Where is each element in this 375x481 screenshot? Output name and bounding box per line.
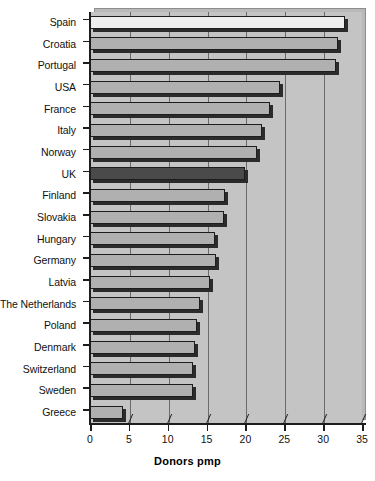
- bar-body: [90, 81, 280, 94]
- y-tick: [83, 127, 90, 129]
- bar-france: [90, 102, 275, 124]
- bar-croatia: [90, 37, 343, 59]
- x-axis-title: Donors pmp: [0, 455, 375, 467]
- y-tick: [83, 171, 90, 173]
- x-tick-20: [245, 425, 247, 431]
- bar-body: [90, 211, 224, 224]
- y-label-latvia: Latvia: [0, 276, 82, 288]
- y-tick: [83, 41, 90, 43]
- y-label-portugal: Portugal: [0, 59, 82, 71]
- y-tick: [83, 257, 90, 259]
- y-label-hungary: Hungary: [0, 233, 82, 245]
- x-tick-5: [129, 425, 131, 431]
- y-label-slovakia: Slovakia: [0, 211, 82, 223]
- bar-body: [90, 254, 216, 267]
- y-label-spain: Spain: [0, 16, 82, 28]
- y-tick: [83, 62, 90, 64]
- bar-latvia: [90, 276, 215, 298]
- x-tick-10: [168, 425, 170, 431]
- bar-germany: [90, 254, 221, 276]
- y-label-the-netherlands: The Netherlands: [0, 298, 82, 310]
- x-tick-15: [207, 425, 209, 431]
- y-tick: [83, 106, 90, 108]
- y-tick: [83, 84, 90, 86]
- bar-usa: [90, 81, 285, 103]
- y-tick: [83, 214, 90, 216]
- bar-body: [90, 384, 193, 397]
- y-tick: [83, 409, 90, 411]
- bar-body: [90, 124, 262, 137]
- x-tick-label-35: 35: [356, 433, 368, 445]
- donors-pmp-bar-chart: SpainCroatiaPortugalUSAFranceItalyNorway…: [0, 0, 375, 481]
- bar-body: [90, 37, 338, 50]
- bar-body: [90, 406, 123, 419]
- x-tick-25: [284, 425, 286, 431]
- bar-body: [90, 341, 195, 354]
- bar-norway: [90, 146, 262, 168]
- bar-italy: [90, 124, 267, 146]
- bar-slovakia: [90, 211, 229, 233]
- x-tick-label-5: 5: [126, 433, 132, 445]
- y-tick: [83, 387, 90, 389]
- y-label-france: France: [0, 103, 82, 115]
- y-label-switzerland: Switzerland: [0, 363, 82, 375]
- y-tick: [83, 149, 90, 151]
- bar-uk: [90, 167, 250, 189]
- y-tick: [83, 279, 90, 281]
- bar-portugal: [90, 59, 341, 81]
- y-label-croatia: Croatia: [0, 38, 82, 50]
- y-axis-line: [89, 12, 91, 424]
- bar-sweden: [90, 384, 198, 406]
- bar-body: [90, 167, 245, 180]
- bar-body: [90, 362, 193, 375]
- bar-body: [90, 297, 200, 310]
- bar-switzerland: [90, 362, 198, 384]
- y-tick: [83, 366, 90, 368]
- bar-body: [90, 102, 270, 115]
- bar-poland: [90, 319, 202, 341]
- x-tick-30: [323, 425, 325, 431]
- y-label-italy: Italy: [0, 124, 82, 136]
- bar-body: [90, 276, 210, 289]
- y-tick: [83, 192, 90, 194]
- bar-body: [90, 146, 257, 159]
- y-label-germany: Germany: [0, 254, 82, 266]
- y-label-greece: Greece: [0, 406, 82, 418]
- x-tick-label-30: 30: [317, 433, 329, 445]
- x-tick-label-10: 10: [162, 433, 174, 445]
- bar-body: [90, 16, 345, 29]
- bar-hungary: [90, 232, 220, 254]
- bar-body: [90, 232, 215, 245]
- bar-the-netherlands: [90, 297, 205, 319]
- y-label-denmark: Denmark: [0, 341, 82, 353]
- x-tick-label-25: 25: [278, 433, 290, 445]
- y-label-norway: Norway: [0, 146, 82, 158]
- y-label-finland: Finland: [0, 189, 82, 201]
- bar-denmark: [90, 341, 200, 363]
- x-tick-35: [362, 425, 364, 431]
- bar-body: [90, 189, 225, 202]
- x-tick-label-20: 20: [240, 433, 252, 445]
- y-tick: [83, 344, 90, 346]
- bar-body: [90, 319, 197, 332]
- y-tick: [83, 301, 90, 303]
- bar-body: [90, 59, 336, 72]
- y-tick: [83, 19, 90, 21]
- x-tick-0: [90, 425, 92, 431]
- y-tick: [83, 322, 90, 324]
- y-label-sweden: Sweden: [0, 384, 82, 396]
- bars-layer: [90, 12, 375, 424]
- bar-finland: [90, 189, 230, 211]
- y-label-usa: USA: [0, 81, 82, 93]
- y-label-uk: UK: [0, 168, 82, 180]
- y-label-poland: Poland: [0, 319, 82, 331]
- bar-spain: [90, 16, 350, 38]
- y-tick: [83, 236, 90, 238]
- y-axis-labels: SpainCroatiaPortugalUSAFranceItalyNorway…: [0, 12, 82, 424]
- x-tick-label-15: 15: [201, 433, 213, 445]
- x-tick-label-0: 0: [87, 433, 93, 445]
